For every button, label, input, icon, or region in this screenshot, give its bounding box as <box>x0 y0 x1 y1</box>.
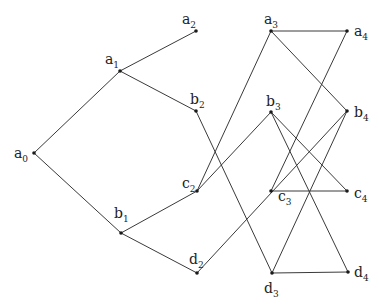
label-d3: d3 <box>264 280 279 299</box>
graph-diagram: a0a1a2b2b1c2d2a3b3c3d3a4b4c4d4 <box>0 0 379 307</box>
edge-b2-d3 <box>196 111 272 273</box>
node-d2 <box>195 271 199 275</box>
label-d4: d4 <box>354 264 369 283</box>
node-b1 <box>119 231 123 235</box>
label-a1: a1 <box>105 51 119 70</box>
labels-layer: a0a1a2b2b1c2d2a3b3c3d3a4b4c4d4 <box>14 11 369 299</box>
edge-c2-a3 <box>197 31 271 191</box>
label-b4: b4 <box>354 104 369 123</box>
label-d2: d2 <box>189 251 204 270</box>
edge-a0-a1 <box>34 71 120 153</box>
edge-a0-b1 <box>34 153 121 233</box>
label-b2: b2 <box>190 91 205 110</box>
node-d4 <box>346 270 350 274</box>
node-b2 <box>194 109 198 113</box>
edges-layer <box>34 31 348 273</box>
node-a4 <box>345 29 349 33</box>
label-c4: c4 <box>354 185 368 204</box>
nodes-layer <box>32 29 350 275</box>
node-c3 <box>269 189 273 193</box>
label-b3: b3 <box>266 93 281 112</box>
edge-b1-c2 <box>121 191 197 233</box>
edge-d3-d4 <box>272 272 348 273</box>
node-b3 <box>269 110 273 114</box>
edge-a1-b2 <box>120 71 196 111</box>
edge-a1-a2 <box>120 31 196 71</box>
label-a2: a2 <box>182 11 196 30</box>
node-a0 <box>32 151 36 155</box>
edge-c2-b3 <box>197 112 271 191</box>
edge-a4-c3 <box>271 31 347 191</box>
label-a4: a4 <box>354 23 368 42</box>
node-d3 <box>270 271 274 275</box>
node-c4 <box>345 189 349 193</box>
label-c2: c2 <box>182 175 196 194</box>
label-a0: a0 <box>14 145 28 164</box>
edge-b1-d2 <box>121 233 197 273</box>
edge-a3-b4 <box>271 31 347 111</box>
label-b1: b1 <box>114 205 129 224</box>
label-a3: a3 <box>264 11 278 30</box>
node-b4 <box>345 109 349 113</box>
node-c2 <box>195 189 199 193</box>
